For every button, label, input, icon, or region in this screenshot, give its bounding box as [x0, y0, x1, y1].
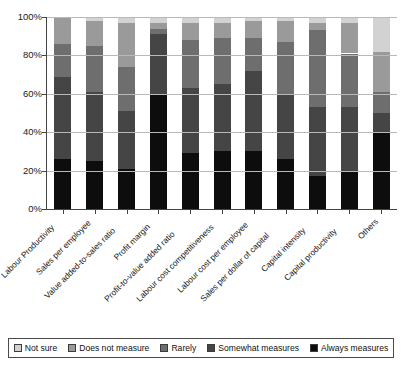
y-tickmark: [42, 94, 47, 95]
bar-segment: [182, 40, 199, 88]
gridline: [47, 17, 397, 18]
y-tick-label: 60%: [2, 89, 42, 99]
bar-segment: [86, 46, 103, 92]
legend-label: Rarely: [171, 344, 196, 353]
gridline: [47, 94, 397, 95]
plot-wrapper: 0%20%40%60%80%100%: [0, 0, 404, 236]
bar-segment: [214, 151, 231, 209]
legend-item[interactable]: Does not measure: [68, 344, 149, 353]
bar-segment: [118, 23, 135, 67]
legend-swatch-icon: [207, 344, 215, 352]
bar-segment: [118, 67, 135, 111]
bar-segment: [150, 23, 167, 29]
bar-segment: [341, 54, 358, 108]
bar-profit-margin[interactable]: [150, 17, 167, 209]
legend-swatch-icon: [68, 344, 76, 352]
bar-segment: [309, 176, 326, 209]
bars-layer: [47, 17, 397, 209]
bar-segment: [373, 52, 390, 92]
bar-segment: [245, 71, 262, 152]
bar-segment: [118, 169, 135, 209]
bar-segment: [182, 88, 199, 153]
gridline: [47, 171, 397, 172]
bar-segment: [150, 29, 167, 35]
bar-segment: [277, 94, 294, 159]
y-axis: 0%20%40%60%80%100%: [0, 0, 42, 236]
bar-segment: [86, 21, 103, 46]
bar-segment: [277, 159, 294, 209]
bar-segment: [214, 23, 231, 38]
y-tick-label: 40%: [2, 127, 42, 137]
bar-segment: [309, 107, 326, 176]
y-tickmark: [42, 209, 47, 210]
bar-segment: [309, 30, 326, 107]
bar-others[interactable]: [373, 17, 390, 209]
bar-segment: [118, 111, 135, 169]
bar-segment: [341, 23, 358, 54]
y-tickmark: [42, 17, 47, 18]
y-tickmark: [42, 171, 47, 172]
legend-label: Not sure: [25, 344, 57, 353]
gridline: [47, 55, 397, 56]
legend-label: Somewhat measures: [218, 344, 299, 353]
bar-segment: [214, 38, 231, 84]
bar-segment: [150, 94, 167, 209]
legend-item[interactable]: Somewhat measures: [207, 344, 299, 353]
plot-area: [46, 17, 397, 210]
legend-swatch-icon: [14, 344, 22, 352]
bar-segment: [54, 159, 71, 209]
bar-segment: [277, 42, 294, 94]
bar-segment: [150, 34, 167, 94]
bar-capital-intensity[interactable]: [309, 17, 326, 209]
bar-segment: [245, 151, 262, 209]
bar-segment: [373, 17, 390, 52]
gridline: [47, 132, 397, 133]
legend-swatch-icon: [160, 344, 168, 352]
bar-sales-per-employee[interactable]: [86, 17, 103, 209]
bar-segment: [182, 153, 199, 209]
x-axis-label: Labour Productivity: [0, 223, 56, 280]
legend-item[interactable]: Not sure: [14, 344, 57, 353]
bar-capital-productivity[interactable]: [341, 17, 358, 209]
bar-segment: [341, 171, 358, 209]
y-tick-label: 100%: [2, 12, 42, 22]
bar-segment: [341, 107, 358, 170]
x-axis-label: Others: [356, 217, 380, 241]
bar-labour-cost-competitiveness[interactable]: [214, 17, 231, 209]
bar-segment: [54, 77, 71, 160]
y-tick-label: 80%: [2, 50, 42, 60]
bar-segment: [54, 17, 71, 44]
legend-label: Always measures: [321, 344, 388, 353]
bar-segment: [86, 92, 103, 161]
legend-item[interactable]: Always measures: [310, 344, 388, 353]
x-axis-labels: Labour ProductivitySales per employeeVal…: [0, 213, 404, 331]
bar-labour-cost-per-employee[interactable]: [245, 17, 262, 209]
bar-segment: [373, 92, 390, 113]
bar-labour-productivity[interactable]: [54, 17, 71, 209]
stacked-bar-chart: 0%20%40%60%80%100% Labour ProductivitySa…: [0, 0, 404, 372]
y-tickmark: [42, 132, 47, 133]
y-tickmark: [42, 55, 47, 56]
legend-item[interactable]: Rarely: [160, 344, 196, 353]
chart-legend: Not sureDoes not measureRarelySomewhat m…: [8, 338, 394, 358]
legend-swatch-icon: [310, 344, 318, 352]
bar-segment: [182, 23, 199, 40]
legend-label: Does not measure: [79, 344, 149, 353]
bar-segment: [245, 21, 262, 38]
bar-sales-per-dollar-of-capital[interactable]: [277, 17, 294, 209]
bar-profit-to-value-added-ratio[interactable]: [182, 17, 199, 209]
y-tick-label: 20%: [2, 166, 42, 176]
bar-segment: [54, 44, 71, 77]
bar-segment: [309, 23, 326, 31]
bar-value-added-to-sales-ratio[interactable]: [118, 17, 135, 209]
bar-segment: [277, 21, 294, 42]
bar-segment: [373, 113, 390, 132]
bar-segment: [86, 161, 103, 209]
